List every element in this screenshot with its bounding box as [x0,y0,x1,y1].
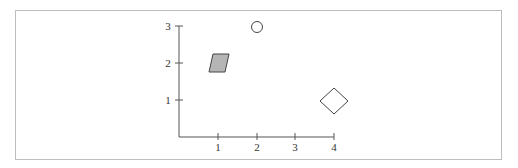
circle-marker [252,22,263,33]
y-label-2: 2 [165,57,171,69]
y-label-1: 1 [165,94,171,106]
scatter-plot: 3 2 1 1 2 3 4 [0,0,518,168]
x-label-3: 3 [292,141,298,153]
y-label-3: 3 [165,20,171,32]
x-label-4: 4 [331,141,337,153]
parallelogram-marker [209,54,229,72]
diamond-marker [320,88,348,114]
x-label-1: 1 [215,141,221,153]
x-label-2: 2 [254,141,260,153]
